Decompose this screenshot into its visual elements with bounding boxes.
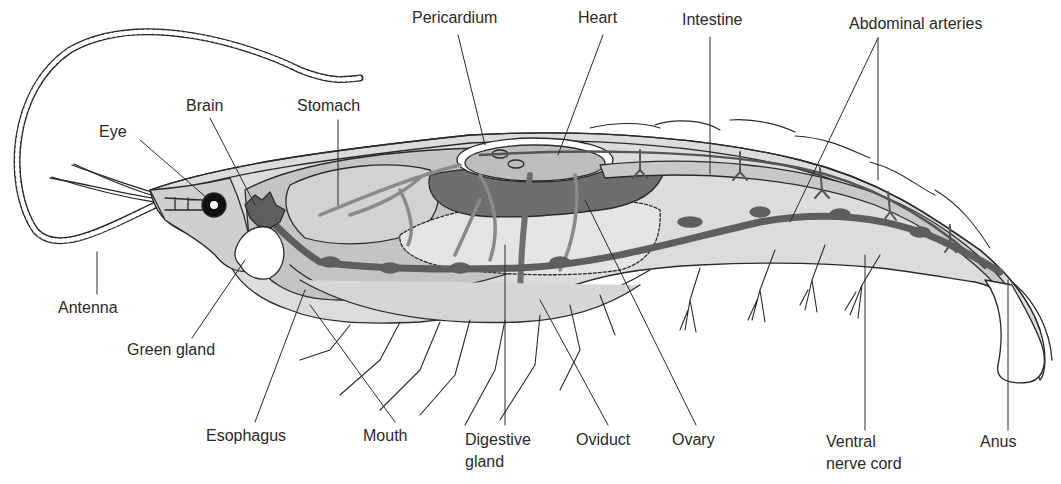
label-anus: Anus (980, 432, 1016, 452)
label-ovary: Ovary (672, 430, 715, 450)
label-ventral-nerve-cord-line1: Ventral (826, 432, 876, 452)
leader-pericardium (458, 35, 485, 145)
leader-green-gland (192, 260, 245, 338)
label-abdominal-arteries: Abdominal arteries (849, 14, 982, 34)
leader-oviduct (540, 300, 608, 425)
label-intestine: Intestine (682, 10, 742, 30)
label-pericardium: Pericardium (412, 8, 497, 28)
label-oviduct: Oviduct (576, 430, 630, 450)
tail-fan (985, 280, 1044, 383)
label-green-gland: Green gland (127, 340, 215, 360)
label-ventral-nerve-cord-line2: nerve cord (826, 454, 902, 474)
label-digestive-gland-line2: gland (465, 452, 504, 472)
label-heart: Heart (578, 8, 617, 28)
label-digestive-gland-line1: Digestive (465, 430, 531, 450)
label-stomach: Stomach (297, 96, 360, 116)
label-eye: Eye (99, 122, 127, 142)
label-brain: Brain (186, 96, 223, 116)
shrimp-anatomy-drawing (0, 0, 1061, 484)
label-esophagus: Esophagus (206, 426, 286, 446)
label-antenna: Antenna (58, 298, 118, 318)
label-mouth: Mouth (363, 426, 407, 446)
leader-esophagus (255, 290, 305, 422)
